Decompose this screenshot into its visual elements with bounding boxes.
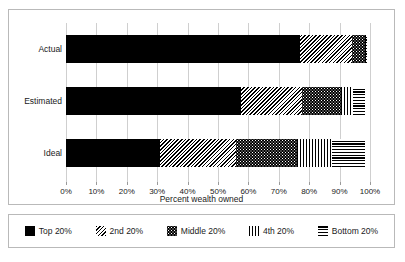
- stacked-bar: [66, 139, 365, 167]
- chart-legend: Top 20%2nd 20%Middle 20%4th 20%Bottom 20…: [8, 214, 395, 248]
- stacked-bar: [66, 87, 365, 115]
- legend-label: 4th 20%: [263, 226, 294, 236]
- bar-segment-middle-20: [352, 35, 366, 63]
- bar-segment-2nd-20: [160, 139, 236, 167]
- stacked-bar: [66, 35, 367, 63]
- bar-segment-2nd-20: [241, 87, 302, 115]
- category-label-ideal: Ideal: [9, 148, 62, 158]
- legend-item-top-20[interactable]: Top 20%: [25, 226, 72, 236]
- legend-item-4th-20[interactable]: 4th 20%: [249, 226, 294, 236]
- bar-segment-bottom-20: [332, 139, 365, 167]
- bar-segment-bottom-20: [353, 87, 365, 115]
- legend-label: Top 20%: [39, 226, 72, 236]
- bar-segment-top-20: [66, 35, 300, 63]
- bar-segment-middle-20: [236, 139, 297, 167]
- x-tick-mark-0: [66, 182, 67, 185]
- legend-item-bottom-20[interactable]: Bottom 20%: [318, 226, 378, 236]
- x-tick-mark-100: [370, 182, 371, 185]
- bar-row-actual: [66, 35, 370, 63]
- plot-area: [66, 23, 370, 182]
- bar-segment-bottom-20: [366, 35, 367, 63]
- bar-segment-2nd-20: [300, 35, 352, 63]
- legend-swatch-solid-black-icon: [25, 226, 35, 236]
- bar-segment-4th-20: [297, 139, 332, 167]
- legend-swatch-horizontal-lines-icon: [318, 226, 328, 236]
- x-tick-mark-70: [279, 182, 280, 185]
- plot-frame: ActualEstimatedIdeal 0%10%20%30%40%50%60…: [8, 9, 395, 205]
- category-label-actual: Actual: [9, 44, 62, 54]
- x-tick-mark-80: [309, 182, 310, 185]
- bar-row-ideal: [66, 139, 370, 167]
- x-tick-mark-40: [188, 182, 189, 185]
- bar-segment-4th-20: [341, 87, 353, 115]
- x-axis-title: Percent wealth owned: [9, 194, 394, 204]
- legend-swatch-diagonal-hatch-icon: [96, 226, 106, 236]
- legend-swatch-dotted-black-icon: [167, 226, 177, 236]
- x-tick-mark-90: [340, 182, 341, 185]
- category-label-estimated: Estimated: [9, 96, 62, 106]
- x-tick-mark-60: [248, 182, 249, 185]
- x-tick-mark-10: [96, 182, 97, 185]
- wealth-distribution-chart: ActualEstimatedIdeal 0%10%20%30%40%50%60…: [0, 0, 405, 262]
- x-tick-mark-20: [127, 182, 128, 185]
- bar-segment-top-20: [66, 139, 160, 167]
- x-tick-mark-30: [157, 182, 158, 185]
- legend-swatch-vertical-lines-icon: [249, 226, 259, 236]
- bar-row-estimated: [66, 87, 370, 115]
- gridline-100: [370, 23, 371, 182]
- legend-label: Bottom 20%: [332, 226, 378, 236]
- legend-item-middle-20[interactable]: Middle 20%: [167, 226, 225, 236]
- legend-label: Middle 20%: [181, 226, 225, 236]
- legend-label: 2nd 20%: [110, 226, 144, 236]
- bar-segment-top-20: [66, 87, 241, 115]
- x-tick-mark-50: [218, 182, 219, 185]
- bar-segment-middle-20: [302, 87, 342, 115]
- legend-item-2nd-20[interactable]: 2nd 20%: [96, 226, 144, 236]
